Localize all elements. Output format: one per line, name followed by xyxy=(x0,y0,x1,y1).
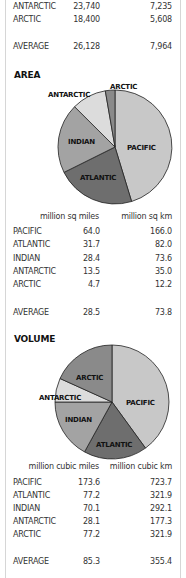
ocean-name: ARCTIC xyxy=(13,529,41,541)
area-km: 73.8 xyxy=(155,307,172,319)
volume-km: 321.9 xyxy=(150,529,172,541)
area-row-pacific: PACIFIC 64.0 166.0 xyxy=(0,226,186,238)
depth-meters: 5,608 xyxy=(150,14,172,26)
area-miles: 31.7 xyxy=(83,239,100,251)
pie-label-arctic: ARCTIC xyxy=(110,83,137,91)
ocean-name: INDIAN xyxy=(13,503,40,515)
average-label: AVERAGE xyxy=(13,41,49,53)
area-row-average: AVERAGE 28.5 73.8 xyxy=(0,307,186,319)
depth-feet: 23,740 xyxy=(73,1,100,13)
pie-label-indian: INDIAN xyxy=(65,416,92,424)
volume-row-pacific: PACIFIC 173.6 723.7 xyxy=(0,477,186,489)
area-unit-km: million sq km xyxy=(121,212,172,221)
volume-row-indian: INDIAN 70.1 292.1 xyxy=(0,503,186,515)
pie-label-indian: INDIAN xyxy=(68,138,95,146)
area-km: 73.6 xyxy=(155,253,172,265)
volume-km: 177.3 xyxy=(150,516,172,528)
area-km: 82.0 xyxy=(155,239,172,251)
volume-pie-chart: ARCTIC ANTARCTIC INDIAN PACIFIC ATLANTIC xyxy=(0,340,186,465)
volume-km: 723.7 xyxy=(150,477,172,489)
area-km: 12.2 xyxy=(155,279,172,291)
depth-meters: 7,964 xyxy=(150,41,172,53)
area-unit-miles: million sq miles xyxy=(40,212,99,221)
area-km: 166.0 xyxy=(150,226,172,238)
area-miles: 13.5 xyxy=(83,266,100,278)
ocean-name: PACIFIC xyxy=(13,477,42,489)
depth-feet: 18,400 xyxy=(73,14,100,26)
area-pie-chart: ARCTIC ANTARCTIC INDIAN PACIFIC ATLANTIC xyxy=(0,80,186,215)
area-row-arctic: ARCTIC 4.7 12.2 xyxy=(0,279,186,291)
volume-row-atlantic: ATLANTIC 77.2 321.9 xyxy=(0,490,186,502)
area-row-atlantic: ATLANTIC 31.7 82.0 xyxy=(0,239,186,251)
volume-row-antarctic: ANTARCTIC 28.1 177.3 xyxy=(0,516,186,528)
volume-row-average: AVERAGE 85.3 355.4 xyxy=(0,556,186,568)
depth-feet: 26,128 xyxy=(73,41,100,53)
volume-miles: 85.3 xyxy=(83,556,100,568)
ocean-name: ARCTIC xyxy=(13,279,41,291)
volume-miles: 70.1 xyxy=(83,503,100,515)
pie-label-antarctic: ANTARCTIC xyxy=(48,91,90,99)
volume-km: 292.1 xyxy=(150,503,172,515)
area-miles: 4.7 xyxy=(88,279,100,291)
ocean-name: ANTARCTIC xyxy=(13,266,56,278)
ocean-name: ARCTIC xyxy=(13,14,41,26)
volume-km: 355.4 xyxy=(150,556,172,568)
ocean-name: ANTARCTIC xyxy=(13,1,56,13)
area-miles: 28.5 xyxy=(83,307,100,319)
ocean-name: INDIAN xyxy=(13,253,40,265)
volume-km: 321.9 xyxy=(150,490,172,502)
area-row-antarctic: ANTARCTIC 13.5 35.0 xyxy=(0,266,186,278)
volume-miles: 77.2 xyxy=(83,490,100,502)
ocean-name: PACIFIC xyxy=(13,226,42,238)
volume-unit-miles: million cubic miles xyxy=(29,462,99,471)
ocean-name: ATLANTIC xyxy=(13,239,50,251)
volume-miles: 173.6 xyxy=(78,477,100,489)
volume-miles: 28.1 xyxy=(83,516,100,528)
depth-meters: 7,235 xyxy=(150,1,172,13)
depth-row-average: AVERAGE 26,128 7,964 xyxy=(0,41,186,53)
volume-unit-km: million cubic km xyxy=(110,462,172,471)
pie-label-arctic: ARCTIC xyxy=(76,374,103,382)
area-miles: 28.4 xyxy=(83,253,100,265)
average-label: AVERAGE xyxy=(13,556,49,568)
ocean-name: ANTARCTIC xyxy=(13,516,56,528)
area-row-indian: INDIAN 28.4 73.6 xyxy=(0,253,186,265)
pie-label-antarctic: ANTARCTIC xyxy=(39,394,81,402)
pie-label-pacific: PACIFIC xyxy=(126,399,155,407)
pie-label-atlantic: ATLANTIC xyxy=(80,174,116,182)
ocean-name: ATLANTIC xyxy=(13,490,50,502)
depth-row-arctic: ARCTIC 18,400 5,608 xyxy=(0,14,186,26)
area-heading: AREA xyxy=(14,70,40,80)
volume-miles: 77.2 xyxy=(83,529,100,541)
area-miles: 64.0 xyxy=(83,226,100,238)
depth-row-antarctic: ANTARCTIC 23,740 7,235 xyxy=(0,1,186,13)
average-label: AVERAGE xyxy=(13,307,49,319)
pie-label-atlantic: ATLANTIC xyxy=(96,441,132,449)
pie-label-pacific: PACIFIC xyxy=(127,144,156,152)
area-km: 35.0 xyxy=(155,266,172,278)
volume-row-arctic: ARCTIC 77.2 321.9 xyxy=(0,529,186,541)
